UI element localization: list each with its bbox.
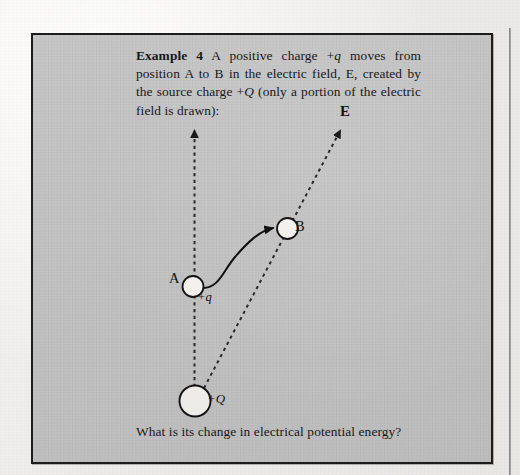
source-charge-label: +Q <box>207 391 225 407</box>
field-vector-label: E <box>340 103 350 120</box>
scanned-textbook-page: Example 4 A positive charge +q moves fro… <box>0 0 520 475</box>
page-margin-rule <box>509 28 511 475</box>
prompt-charge-Q: Q <box>244 84 254 99</box>
example-prompt: Example 4 A positive charge +q moves fro… <box>136 47 421 120</box>
example-lead-label: Example 4 <box>136 48 203 63</box>
diagonal-field-line <box>204 131 340 388</box>
prompt-part-1: A positive charge + <box>203 48 334 63</box>
test-charge-label: +q <box>197 290 212 305</box>
example-box: Example 4 A positive charge +q moves fro… <box>31 33 493 464</box>
position-b-label: B <box>295 218 305 235</box>
position-a-label: A <box>169 270 179 287</box>
example-question: What is its change in electrical potenti… <box>136 423 466 441</box>
motion-path-a-to-b <box>203 228 273 288</box>
source-charge <box>180 386 211 417</box>
